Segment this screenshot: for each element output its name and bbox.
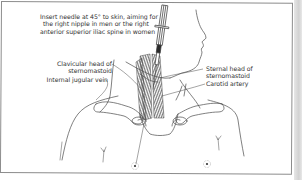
syringe-barrel [156, 5, 168, 45]
syringe-hub [156, 45, 161, 53]
right-clavicle [176, 103, 224, 124]
right-shoulder-outline [208, 100, 244, 156]
nipple-guide-line [136, 124, 144, 164]
leader-sternal-head [160, 69, 203, 78]
sternomastoid-muscle [136, 54, 164, 120]
label-internal-jugular-vein: Internal jugular vein [40, 76, 108, 83]
label-carotid-artery: Carotid artery [206, 80, 248, 87]
label-sternal-head: Sternal head of sternomastoid [206, 65, 253, 80]
left-clavicle [94, 102, 143, 124]
left-shoulder-outline [62, 96, 118, 160]
neck-right-outline [180, 80, 200, 108]
face-profile-outline [170, 10, 206, 78]
nipple-markers [132, 161, 211, 170]
label-needle-instruction: Insert needle at 45° to skin, aiming for… [40, 13, 149, 35]
label-clavicular-head: Clavicular head of sternomastoid [50, 60, 112, 75]
